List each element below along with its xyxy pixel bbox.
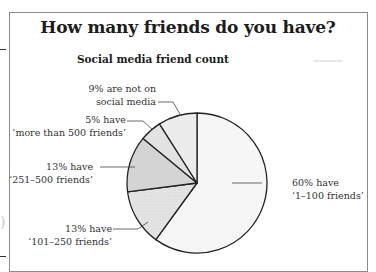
- slice-label-500plus-line2: ‘more than 500 friends’: [12, 126, 126, 139]
- slice-label-500plus-line1: 5% have: [12, 113, 126, 126]
- slice-label-60-line2: ‘1–100 friends’: [292, 189, 364, 202]
- slice-label-not-on: 9% are not on social media: [89, 82, 156, 108]
- slice-label-251-500-line1: 13% have: [9, 160, 93, 173]
- slice-label-251-500: 13% have ‘251–500 friends’: [9, 160, 93, 186]
- slice-label-101-250-line2: ‘101–250 friends’: [28, 235, 112, 248]
- slice-label-not-on-line1: 9% are not on: [89, 82, 156, 95]
- slice-label-60: 60% have ‘1–100 friends’: [292, 176, 364, 202]
- leader-line-500plus: [127, 121, 153, 130]
- slice-label-500plus: 5% have ‘more than 500 friends’: [12, 113, 126, 139]
- slice-label-251-500-line2: ‘251–500 friends’: [9, 173, 93, 186]
- slice-label-101-250: 13% have ‘101–250 friends’: [28, 222, 112, 248]
- slice-label-60-line1: 60% have: [292, 176, 364, 189]
- leader-line-not-on: [158, 102, 181, 116]
- slice-label-not-on-line2: social media: [89, 95, 156, 108]
- slice-label-101-250-line1: 13% have: [28, 222, 112, 235]
